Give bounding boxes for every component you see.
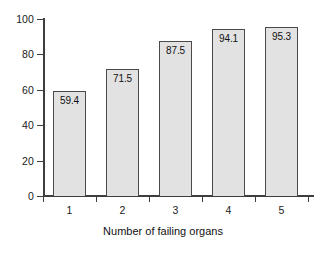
x-axis-title: Number of failing organs	[0, 225, 326, 237]
bar-value-label: 71.5	[107, 74, 138, 84]
x-axis-tick	[43, 196, 44, 202]
y-axis-tick	[37, 54, 43, 55]
bar-value-label: 59.4	[54, 96, 85, 106]
y-axis-tick-label: 20	[4, 156, 34, 167]
x-axis-tick	[149, 196, 150, 202]
bar-category-4: 94.1	[212, 29, 245, 196]
y-axis-tick-label: 0	[4, 191, 34, 202]
x-axis-tick	[202, 196, 203, 202]
bar-chart: 0 20 40 60 80 100 59.4 71.5 87.5 94.1 95…	[0, 0, 326, 254]
bar-category-3: 87.5	[159, 41, 192, 196]
x-axis-tick	[255, 196, 256, 202]
y-axis-tick-label: 80	[4, 49, 34, 60]
bar-category-1: 59.4	[53, 91, 86, 196]
x-axis-tick-label: 5	[262, 205, 302, 216]
x-axis-tick	[96, 196, 97, 202]
x-axis-tick-label: 1	[50, 205, 90, 216]
x-axis-tick-label: 3	[156, 205, 196, 216]
y-axis-line	[43, 18, 45, 197]
y-axis-tick-label: 40	[4, 120, 34, 131]
bar-value-label: 95.3	[266, 32, 297, 42]
y-axis-tick	[37, 125, 43, 126]
bar-value-label: 87.5	[160, 46, 191, 56]
y-axis-tick	[37, 161, 43, 162]
bar-value-label: 94.1	[213, 34, 244, 44]
bar-category-2: 71.5	[106, 69, 139, 196]
x-axis-tick-label: 2	[103, 205, 143, 216]
x-axis-tick	[308, 196, 309, 202]
y-axis-tick-label: 100	[4, 14, 34, 25]
bar-category-5: 95.3	[265, 27, 298, 196]
x-axis-tick-label: 4	[209, 205, 249, 216]
y-axis-tick	[37, 90, 43, 91]
y-axis-tick-label: 60	[4, 85, 34, 96]
y-axis-tick	[37, 19, 43, 20]
